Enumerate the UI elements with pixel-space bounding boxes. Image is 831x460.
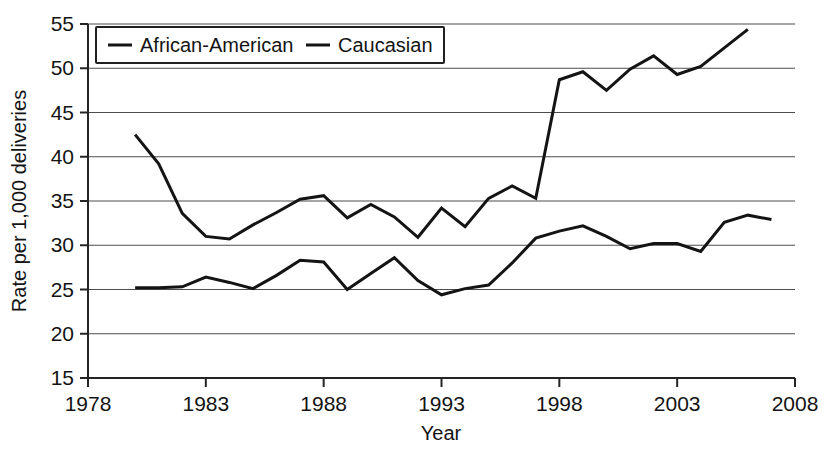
- series-line-caucasian: [135, 215, 771, 295]
- y-tick-label: 15: [51, 366, 74, 389]
- y-tick-label: 35: [51, 189, 74, 212]
- y-tick-label: 20: [51, 322, 74, 345]
- y-tick-label: 55: [51, 12, 74, 35]
- y-axis-ticks: 152025303540455055: [51, 12, 88, 389]
- x-tick-label: 2003: [654, 392, 701, 415]
- x-tick-label: 1998: [536, 392, 583, 415]
- y-tick-label: 25: [51, 278, 74, 301]
- x-tick-label: 1988: [300, 392, 347, 415]
- x-tick-label: 1983: [182, 392, 229, 415]
- line-chart: 152025303540455055 197819831988199319982…: [0, 0, 831, 460]
- x-tick-label: 1978: [65, 392, 112, 415]
- legend-label-african-american: African-American: [140, 34, 293, 56]
- data-series-group: [135, 29, 771, 295]
- x-tick-label: 1993: [418, 392, 465, 415]
- y-tick-label: 45: [51, 101, 74, 124]
- y-tick-label: 40: [51, 145, 74, 168]
- x-axis-ticks: 1978198319881993199820032008: [65, 378, 819, 415]
- x-tick-label: 2008: [772, 392, 819, 415]
- x-axis-label: Year: [421, 422, 462, 444]
- y-tick-label: 30: [51, 233, 74, 256]
- y-axis-label: Rate per 1,000 deliveries: [8, 90, 30, 312]
- y-tick-label: 50: [51, 56, 74, 79]
- legend-label-caucasian: Caucasian: [338, 34, 433, 56]
- chart-legend: African-American Caucasian: [96, 27, 444, 63]
- chart-container: 152025303540455055 197819831988199319982…: [0, 0, 831, 460]
